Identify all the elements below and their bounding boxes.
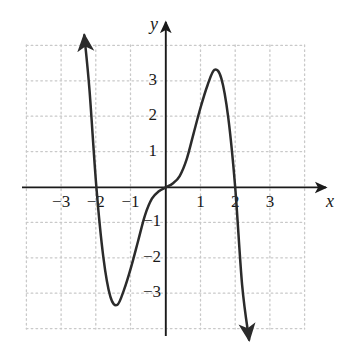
y-tick-1: 1 — [149, 141, 158, 160]
y-axis-label: y — [148, 14, 158, 34]
chart-figure: x y −3 −2 −1 1 2 3 3 2 1 −1 −2 −3 — [0, 0, 343, 358]
x-tick-3: 3 — [266, 192, 275, 211]
y-tick-minus-3: −3 — [143, 282, 161, 301]
x-tick-minus-1: −1 — [121, 192, 139, 211]
chart-background — [0, 0, 343, 358]
x-tick-1: 1 — [196, 192, 205, 211]
coordinate-plane-svg: x y −3 −2 −1 1 2 3 3 2 1 −1 −2 −3 — [0, 0, 343, 358]
y-tick-3: 3 — [149, 70, 158, 89]
y-tick-2: 2 — [149, 105, 158, 124]
y-tick-minus-2: −2 — [143, 247, 161, 266]
x-axis-label: x — [325, 191, 334, 211]
x-tick-minus-3: −3 — [52, 192, 70, 211]
